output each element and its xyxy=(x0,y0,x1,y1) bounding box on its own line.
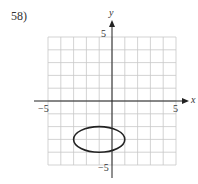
y-axis-arrow-icon xyxy=(109,20,115,27)
x-axis-label: x xyxy=(191,94,195,105)
y-axis-label: y xyxy=(109,7,113,18)
x-axis-arrow-icon xyxy=(182,98,189,104)
y-max-label: 5 xyxy=(101,28,106,39)
coordinate-plane xyxy=(0,0,198,184)
y-min-label: −5 xyxy=(98,162,109,173)
x-min-label: −5 xyxy=(38,103,49,114)
x-max-label: 5 xyxy=(173,103,178,114)
